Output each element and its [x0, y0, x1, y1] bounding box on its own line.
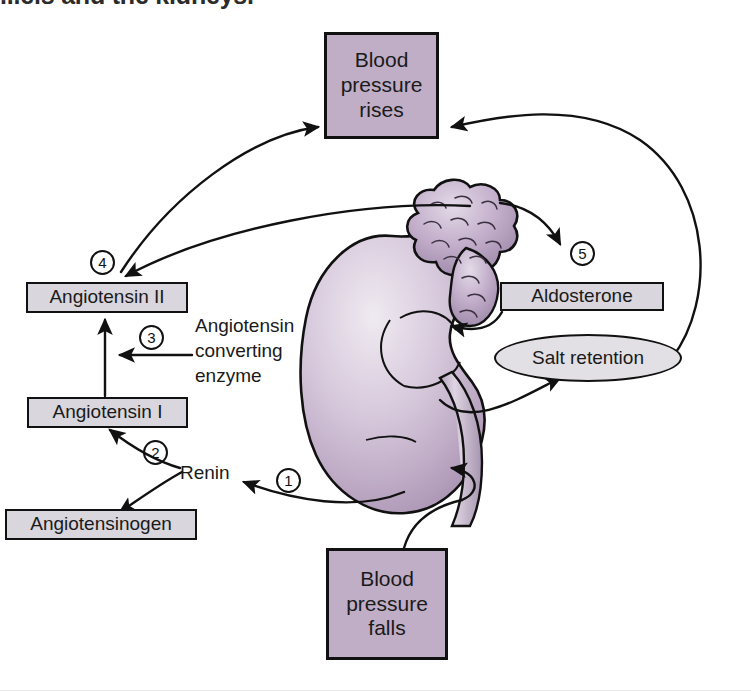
node-salt-retention: Salt retention — [494, 334, 682, 382]
page-caption: ...els and the kidneys. — [0, 0, 300, 18]
arrow-adrenal-to-aldosterone — [500, 203, 560, 244]
node-salt-retention-label: Salt retention — [532, 347, 644, 369]
node-angiotensinogen: Angiotensinogen — [5, 509, 197, 540]
page-caption-text: ...els and the kidneys. — [0, 0, 254, 10]
arrow-kidney-to-angiotensin2 — [126, 205, 470, 276]
step-marker-5: 5 — [570, 241, 595, 266]
node-angiotensin-1-label: Angiotensin I — [53, 401, 163, 423]
node-angiotensin-2-label: Angiotensin II — [49, 286, 164, 308]
node-aldosterone: Aldosterone — [500, 282, 664, 311]
step-marker-4-label: 4 — [98, 254, 106, 271]
node-aldosterone-label: Aldosterone — [531, 285, 632, 307]
label-renin: Renin — [180, 460, 230, 485]
page-bottom-divider — [0, 690, 751, 691]
kidney-illustration — [301, 232, 493, 526]
node-angiotensinogen-label: Angiotensinogen — [30, 513, 172, 535]
arrow-kidney-to-salt-retention — [440, 378, 560, 412]
arrow-angiotensin2-to-bp-rises — [121, 127, 318, 272]
diagram-canvas: ...els and the kidneys. — [0, 0, 751, 697]
line-bp-falls-to-kidney — [404, 500, 462, 548]
arrow-salt-retention-to-bp-rises — [452, 114, 701, 358]
node-angiotensin-2: Angiotensin II — [26, 282, 188, 313]
node-blood-pressure-rises-label: Blood pressure rises — [341, 48, 423, 122]
label-angiotensin-converting-enzyme: Angiotensin converting enzyme — [195, 313, 294, 388]
arrow-renin-to-angiotensinogen — [120, 472, 182, 512]
arrow-bp-falls-into-kidney — [452, 468, 475, 500]
arrow-aldosterone-to-kidney — [452, 312, 502, 329]
node-blood-pressure-falls-label: Blood pressure falls — [346, 567, 428, 641]
node-blood-pressure-falls: Blood pressure falls — [326, 548, 448, 660]
node-angiotensin-1: Angiotensin I — [27, 397, 188, 428]
step-marker-5-label: 5 — [578, 245, 586, 262]
step-marker-1-label: 1 — [284, 472, 292, 489]
step-marker-1: 1 — [276, 468, 301, 493]
step-marker-3-label: 3 — [147, 329, 155, 346]
arrow-kidney-to-renin — [244, 482, 404, 502]
node-blood-pressure-rises: Blood pressure rises — [324, 32, 439, 139]
step-marker-2: 2 — [143, 440, 168, 465]
step-marker-3: 3 — [139, 325, 164, 350]
step-marker-2-label: 2 — [151, 444, 159, 461]
step-marker-4: 4 — [90, 250, 115, 275]
